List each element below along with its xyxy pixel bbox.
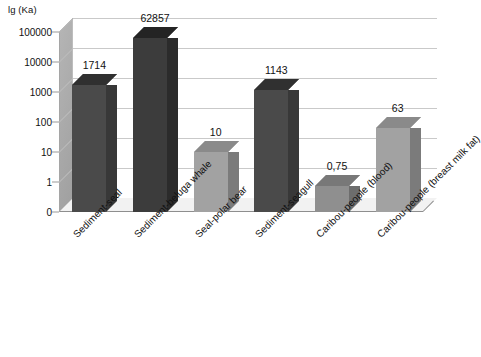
figure-caption	[4, 348, 442, 357]
bar-front-face	[133, 38, 167, 212]
bar-value-label: 10	[210, 126, 222, 138]
bar-value-label: 62857	[140, 12, 169, 24]
bar	[254, 90, 288, 212]
bar-front-face	[254, 90, 288, 212]
bar-top-face	[254, 79, 299, 90]
bar-value-label: 1714	[83, 59, 106, 71]
bar	[72, 85, 106, 212]
bar-top-face	[376, 117, 421, 128]
bar-value-label: 0,75	[327, 160, 347, 172]
bar-value-label: 63	[392, 102, 404, 114]
bar-value-label: 1143	[265, 64, 288, 76]
bar	[133, 38, 167, 212]
bar-top-face	[315, 175, 360, 186]
bar-top-face	[72, 74, 117, 85]
bar-top-face	[194, 141, 239, 152]
bar-front-face	[72, 85, 106, 212]
bar-top-face	[133, 27, 178, 38]
